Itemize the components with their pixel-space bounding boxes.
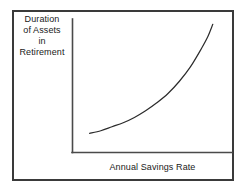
y-axis-label-line-1: Duration bbox=[14, 14, 70, 25]
y-axis-label: Duration of Assets in Retirement bbox=[14, 14, 70, 58]
y-axis-label-line-4: Retirement bbox=[14, 47, 70, 58]
y-axis-label-line-2: of Assets bbox=[14, 25, 70, 36]
y-axis-label-line-3: in bbox=[14, 36, 70, 47]
data-curve bbox=[90, 24, 213, 133]
x-axis-label: Annual Savings Rate bbox=[72, 162, 233, 173]
figure-container: Duration of Assets in Retirement Annual … bbox=[0, 0, 249, 189]
